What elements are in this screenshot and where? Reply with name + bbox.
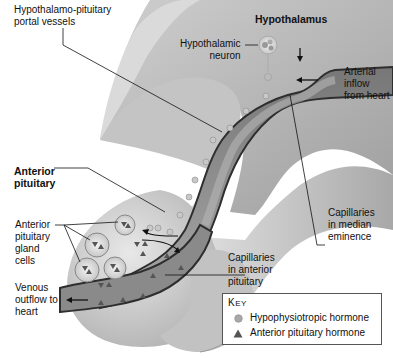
label-gland-cells: Anterior pituitary gland cells — [15, 219, 50, 267]
circle-icon — [231, 314, 245, 323]
legend-item-anterior-pituitary-hormone: Anterior pituitary hormone — [231, 327, 365, 339]
label-anterior-pituitary: Anterior pituitary — [14, 165, 55, 189]
legend-item-hypophysiotropic: Hypophysiotropic hormone — [231, 312, 369, 324]
label-hypothalamus: Hypothalamus — [255, 13, 327, 25]
label-capillaries-anterior-pituitary: Capillaries in anterior pituitary — [228, 252, 275, 288]
label-capillaries-median-eminence: Capillaries in median eminence — [328, 207, 375, 243]
label-portal-vessels: Hypothalamo-pituitary portal vessels — [14, 4, 111, 28]
label-arterial-inflow: Arterial inflow from heart — [344, 66, 390, 102]
label-venous-outflow: Venous outflow to heart — [15, 282, 58, 318]
legend-key: KEY Hypophysiotropic hormone Anterior pi… — [222, 293, 382, 345]
triangle-icon — [231, 329, 245, 338]
label-hypothalamic-neuron: Hypothalamic neuron — [180, 38, 241, 62]
legend-title: KEY — [228, 297, 247, 308]
